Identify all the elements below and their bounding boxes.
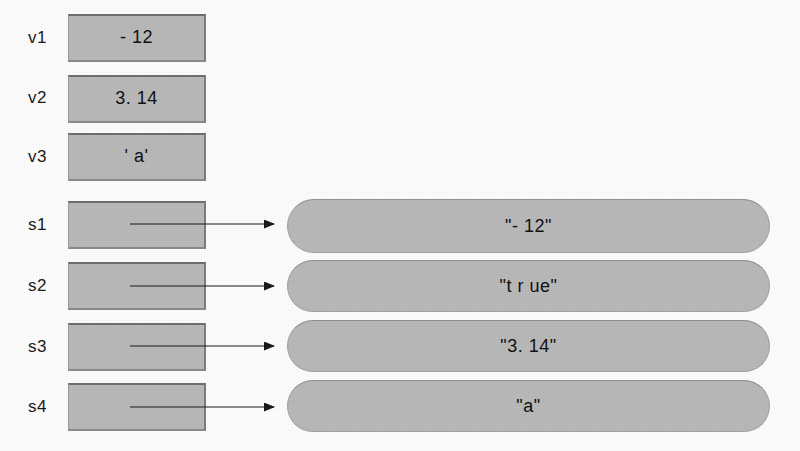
string-object-box-4: "a" xyxy=(287,380,770,432)
variable-label-s4: s4 xyxy=(28,398,47,415)
string-object-value-1: "- 12" xyxy=(505,216,552,237)
variable-label-v2: v2 xyxy=(28,89,47,106)
string-object-value-3: "3. 14" xyxy=(500,336,556,357)
variable-label-v3: v3 xyxy=(28,148,47,165)
string-object-value-4: "a" xyxy=(516,396,540,417)
string-object-box-1: "- 12" xyxy=(287,199,770,253)
variable-box-v1: - 12 xyxy=(68,14,206,62)
variable-value-v2: 3. 14 xyxy=(115,88,158,109)
variable-box-v2: 3. 14 xyxy=(68,75,206,123)
reference-diagram: v1 - 12 v2 3. 14 v3 ' a' s1 s2 s3 s4 "- … xyxy=(0,0,800,451)
variable-label-s1: s1 xyxy=(28,216,47,233)
variable-label-s3: s3 xyxy=(28,338,47,355)
variable-box-s2 xyxy=(68,262,206,310)
variable-value-v3: ' a' xyxy=(125,146,149,167)
string-object-value-2: "t r ue" xyxy=(500,276,558,297)
variable-label-s2: s2 xyxy=(28,277,47,294)
variable-value-v1: - 12 xyxy=(120,27,153,48)
string-object-box-3: "3. 14" xyxy=(287,320,770,372)
string-object-box-2: "t r ue" xyxy=(287,260,770,312)
variable-box-s3 xyxy=(68,323,206,371)
variable-box-s1 xyxy=(68,201,206,249)
variable-label-v1: v1 xyxy=(28,29,47,46)
variable-box-v3: ' a' xyxy=(68,133,206,181)
variable-box-s4 xyxy=(68,383,206,431)
